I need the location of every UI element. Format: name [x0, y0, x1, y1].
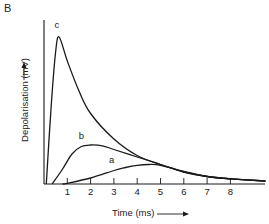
axes	[44, 20, 265, 184]
x-tick-label: 3	[111, 186, 116, 197]
y-axis-label: Depolarisation (mV)	[19, 58, 30, 142]
curve-c	[46, 37, 265, 184]
x-tick-label: 4	[135, 186, 140, 197]
x-axis-ticks: 12345678	[65, 178, 233, 197]
curves	[46, 37, 265, 184]
x-axis-label: Time (ms)	[112, 207, 154, 218]
arrow-right-icon	[183, 212, 189, 217]
x-tick-label: 2	[88, 186, 93, 197]
x-tick-label: 7	[204, 186, 209, 197]
x-tick-label: 1	[65, 186, 70, 197]
x-tick-label: 6	[181, 186, 186, 197]
curve-label-b: b	[79, 130, 84, 141]
curve-a	[63, 164, 266, 184]
curve-label-c: c	[54, 19, 59, 30]
x-tick-label: 8	[228, 186, 233, 197]
x-axis-label-text: Time (ms)	[112, 207, 154, 218]
y-axis-label-text: Depolarisation (mV)	[19, 58, 30, 142]
x-tick-label: 5	[158, 186, 163, 197]
curve-labels: abc	[54, 19, 114, 165]
axis-arrows	[22, 62, 190, 217]
curve-label-a: a	[109, 154, 115, 165]
chart-plot: 12345678 abc	[0, 0, 269, 224]
